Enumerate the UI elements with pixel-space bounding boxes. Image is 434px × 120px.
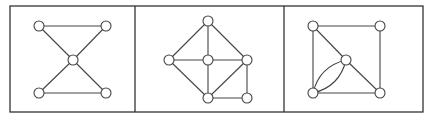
- panel-bowtie-graph: [34, 21, 111, 98]
- graph-figure: [0, 0, 434, 120]
- graph-edge: [313, 26, 346, 60]
- graph-node: [203, 16, 213, 26]
- graph-edge: [346, 60, 380, 93]
- graph-edge: [208, 60, 247, 98]
- graph-edge: [169, 60, 208, 98]
- graph-node: [308, 88, 318, 98]
- graph-canvas: [0, 0, 434, 120]
- graph-edge: [39, 60, 73, 93]
- graph-edge: [39, 26, 73, 60]
- graph-edge: [73, 26, 106, 60]
- graph-node: [203, 55, 213, 65]
- panel-square-multigraph: [308, 21, 385, 98]
- graph-edge: [169, 21, 208, 60]
- graph-node: [68, 55, 78, 65]
- graph-node: [101, 21, 111, 31]
- graph-node: [34, 88, 44, 98]
- graph-edge: [208, 21, 247, 60]
- graph-node: [375, 21, 385, 31]
- graph-edge-curved: [313, 60, 346, 93]
- graph-node: [375, 88, 385, 98]
- graph-node: [101, 88, 111, 98]
- graph-node: [341, 55, 351, 65]
- graph-node: [203, 93, 213, 103]
- graph-node: [242, 55, 252, 65]
- graph-edge-curved: [313, 60, 346, 93]
- graph-edge: [73, 60, 106, 93]
- graph-node: [242, 93, 252, 103]
- panel-house-wheel-graph: [164, 16, 252, 103]
- graph-node: [308, 21, 318, 31]
- graph-node: [34, 21, 44, 31]
- graph-node: [164, 55, 174, 65]
